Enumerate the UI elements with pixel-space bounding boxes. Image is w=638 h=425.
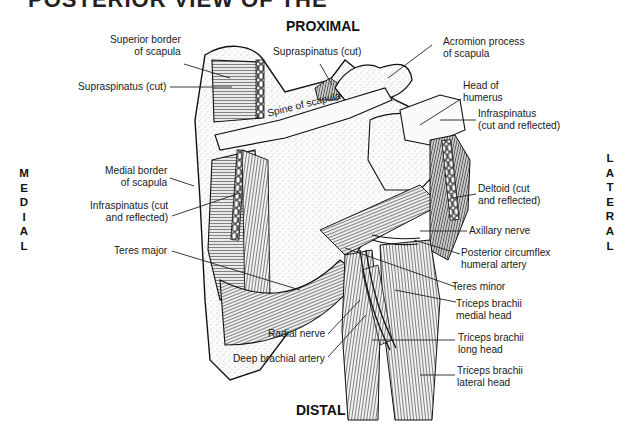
anatomy-figure: POSTERIOR VIEW OF THE bbox=[0, 0, 638, 425]
direction-medial: MEDIAL bbox=[18, 166, 30, 254]
label-posterior-circumflex: Posterior circumflexhumeral artery bbox=[461, 247, 550, 271]
label-infraspinatus-right: Infraspinatus(cut and reflected) bbox=[478, 108, 560, 132]
direction-proximal: PROXIMAL bbox=[286, 18, 360, 34]
label-teres-major: Teres major bbox=[114, 245, 167, 257]
direction-lateral: LATERAL bbox=[604, 151, 616, 253]
label-axillary-nerve: Axillary nerve bbox=[469, 225, 530, 237]
label-superior-border: Superior borderof scapula bbox=[110, 34, 181, 58]
label-deltoid: Deltoid (cutand reflected) bbox=[478, 183, 540, 207]
label-supraspinatus-left: Supraspinatus (cut) bbox=[78, 81, 166, 93]
label-infraspinatus-left: Infraspinatus (cutand reflected) bbox=[90, 200, 168, 224]
label-triceps-long: Triceps brachiilong head bbox=[458, 332, 524, 356]
label-radial-nerve: Radial nerve bbox=[268, 328, 325, 340]
label-supraspinatus-top: Supraspinatus (cut) bbox=[273, 46, 361, 58]
direction-distal: DISTAL bbox=[296, 402, 346, 418]
label-teres-minor: Teres minor bbox=[452, 281, 505, 293]
label-medial-border: Medial borderof scapula bbox=[105, 165, 167, 189]
label-triceps-lateral: Triceps brachiilateral head bbox=[457, 365, 523, 389]
label-head-of-humerus: Head ofhumerus bbox=[463, 80, 503, 104]
label-deep-brachial-artery: Deep brachial artery bbox=[233, 353, 325, 365]
label-acromion: Acromion processof scapula bbox=[443, 36, 525, 60]
label-triceps-medial: Triceps brachiimedial head bbox=[456, 298, 522, 322]
